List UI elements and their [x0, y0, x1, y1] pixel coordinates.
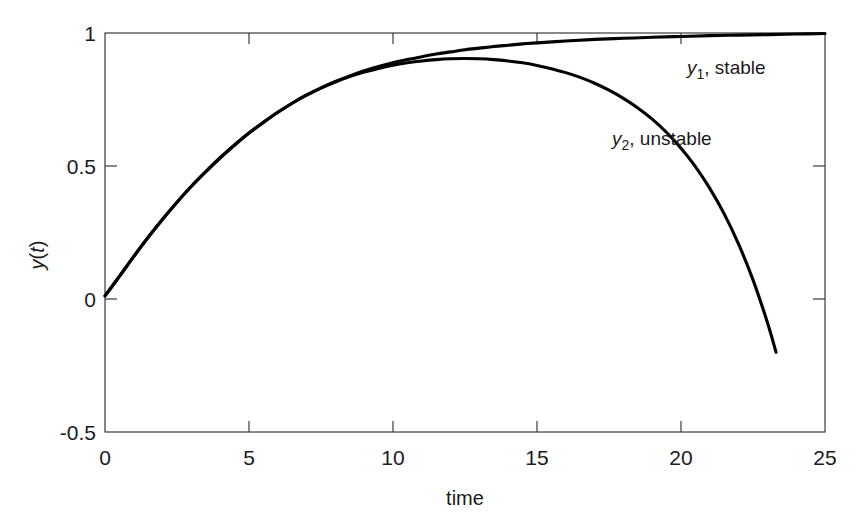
ytick-label-1: 1 [84, 22, 96, 45]
plot-frame [105, 33, 825, 432]
series-label-y1-stable: y1, stable [685, 57, 766, 82]
xtick-label-0: 0 [99, 446, 111, 469]
series-label-y2-sub: 2 [622, 137, 630, 153]
ytick-label-0: 0 [84, 288, 96, 311]
series-label-y1-rest: , stable [704, 57, 765, 78]
y-axis-title: y(t) [26, 241, 48, 272]
line-chart: 1 0.5 0 -0.5 0 5 10 15 20 25 time y(t) y… [0, 0, 857, 530]
curve-y2-unstable [105, 59, 776, 353]
y-axis-title-group: y(t) [26, 241, 48, 272]
xtick-label-10: 10 [381, 446, 404, 469]
figure-container: 1 0.5 0 -0.5 0 5 10 15 20 25 time y(t) y… [0, 0, 857, 530]
x-axis-title: time [446, 487, 484, 509]
ytick-label-minus-0-5: -0.5 [60, 421, 96, 444]
series-label-y2-unstable: y2, unstable [610, 128, 712, 153]
y-axis-title-paren-close: ) [26, 241, 48, 248]
xtick-label-5: 5 [243, 446, 255, 469]
xtick-label-20: 20 [669, 446, 692, 469]
xtick-label-15: 15 [525, 446, 548, 469]
ytick-label-0-5: 0.5 [67, 155, 96, 178]
series-label-y2-rest: , unstable [629, 128, 711, 149]
series-label-y1-sub: 1 [697, 66, 705, 82]
xtick-label-25: 25 [813, 446, 836, 469]
